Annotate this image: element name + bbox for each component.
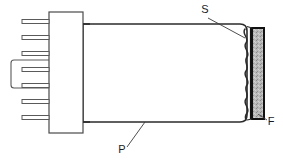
filter-top-tie	[247, 27, 252, 29]
label-p: P	[118, 143, 125, 155]
connector-block	[49, 12, 83, 133]
pin-2	[22, 36, 49, 40]
pin-1	[22, 20, 49, 24]
pin-5	[22, 84, 49, 88]
housing-body	[83, 24, 247, 122]
figure-canvas: S F P	[0, 0, 283, 161]
label-f: F	[268, 115, 275, 127]
technical-drawing: S F P	[0, 0, 283, 161]
filter-element	[251, 28, 265, 119]
label-s: S	[201, 3, 208, 15]
filter-body	[252, 28, 264, 119]
connector-block-outline	[49, 12, 83, 133]
leader-line-p	[127, 122, 145, 147]
connector-pins	[22, 20, 49, 120]
pin-3	[22, 52, 49, 56]
pin-7	[22, 116, 49, 120]
pin-6	[22, 100, 49, 104]
housing-outline	[83, 24, 247, 122]
pin-4	[22, 68, 49, 72]
